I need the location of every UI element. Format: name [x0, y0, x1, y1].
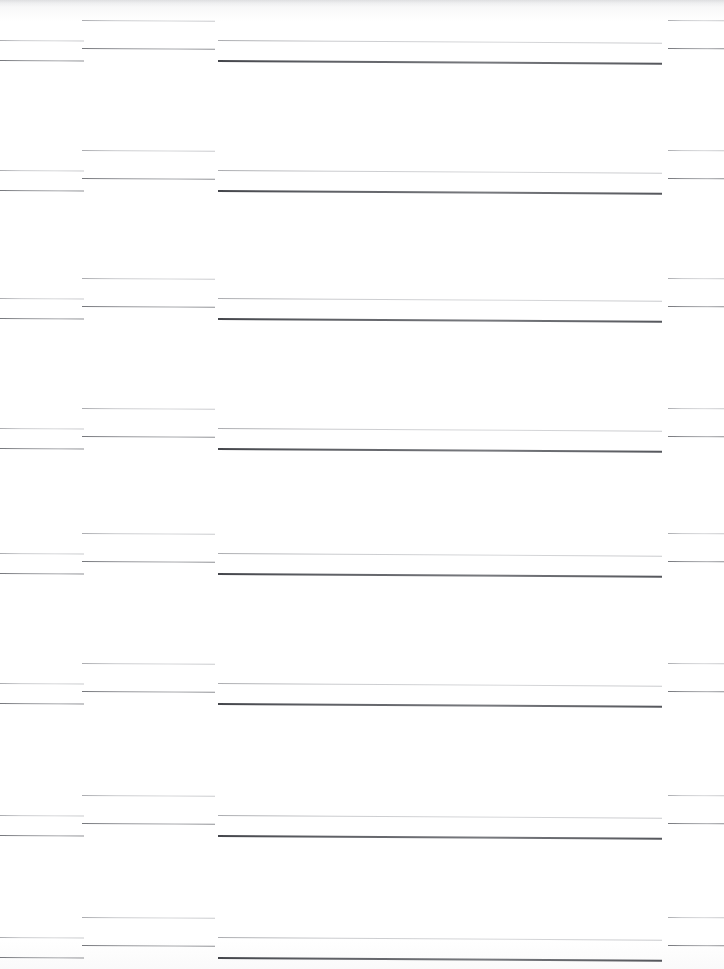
rule-line — [668, 917, 724, 918]
rule-line — [82, 917, 215, 919]
rule-line — [0, 170, 84, 172]
rule-line — [0, 40, 84, 42]
rule-line — [218, 683, 662, 687]
rule-line — [668, 408, 724, 409]
rule-line — [82, 533, 215, 535]
rule-line — [218, 60, 662, 65]
rule-line — [0, 298, 84, 300]
rule-line — [82, 945, 215, 947]
rule-line — [82, 306, 215, 308]
rule-line — [668, 48, 724, 49]
scan-edge-artifact — [0, 0, 724, 7]
rule-line — [668, 150, 724, 151]
rule-line — [668, 795, 724, 796]
rule-line — [668, 561, 724, 562]
rule-line — [218, 448, 662, 453]
rule-line — [82, 795, 215, 797]
rule-line — [668, 436, 724, 437]
rule-line — [668, 663, 724, 664]
rule-line — [218, 170, 662, 174]
paper-texture — [0, 0, 724, 969]
rule-line — [0, 835, 84, 837]
rule-line — [218, 40, 662, 44]
rule-line — [0, 428, 84, 430]
rule-line — [0, 553, 84, 555]
rule-line — [0, 957, 84, 959]
rule-line — [668, 823, 724, 824]
scanned-document-page — [0, 0, 724, 969]
rule-line — [0, 318, 84, 320]
rule-line — [218, 835, 662, 840]
rule-line — [668, 20, 724, 21]
rule-line — [668, 945, 724, 946]
rule-line — [218, 573, 662, 578]
rule-line — [0, 937, 84, 939]
rule-line — [0, 60, 84, 62]
rule-line — [0, 815, 84, 817]
rule-line — [218, 428, 662, 432]
rule-line — [668, 178, 724, 179]
rule-line — [82, 823, 215, 825]
rule-line — [0, 448, 84, 450]
rule-line — [668, 691, 724, 692]
rule-line — [668, 533, 724, 534]
rule-line — [218, 298, 662, 302]
rule-line — [82, 408, 215, 410]
rule-line — [218, 190, 662, 195]
rule-line — [82, 150, 215, 152]
rule-line — [82, 20, 215, 22]
rule-line — [218, 937, 662, 941]
rule-line — [0, 703, 84, 705]
rule-line — [82, 48, 215, 50]
rule-line — [0, 683, 84, 685]
rule-line — [82, 691, 215, 693]
rule-line — [0, 190, 84, 192]
rule-line — [218, 318, 662, 323]
rule-line — [668, 278, 724, 279]
rule-line — [218, 553, 662, 557]
rule-line — [668, 306, 724, 307]
rule-line — [218, 957, 662, 962]
rule-line — [82, 561, 215, 563]
rule-line — [218, 703, 662, 708]
rule-line — [218, 815, 662, 819]
rule-line — [82, 663, 215, 665]
rule-line — [0, 573, 84, 575]
rule-line — [82, 278, 215, 280]
rule-line — [82, 178, 215, 180]
rule-line — [82, 436, 215, 438]
